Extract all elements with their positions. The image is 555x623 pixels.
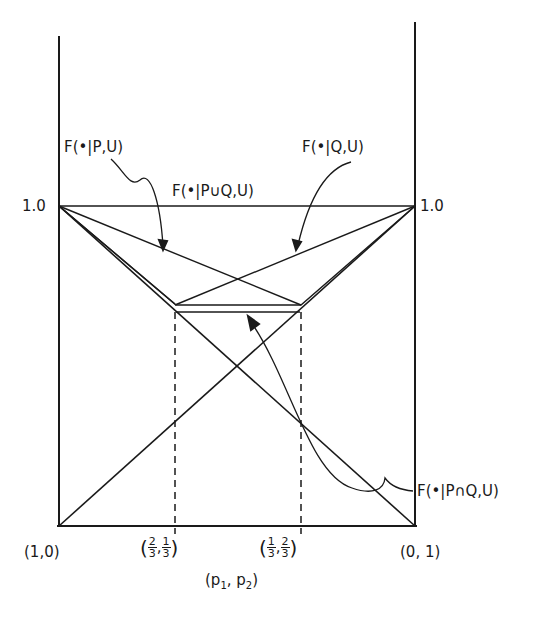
x-tick-1-0: (1,0) xyxy=(24,545,60,560)
label-f-q: F(•|Q,U) xyxy=(302,140,364,155)
arrow-f-q-head xyxy=(293,240,301,250)
label-f-intersection: F(•|P∩Q,U) xyxy=(417,484,499,499)
f-p-outer-left xyxy=(59,206,175,304)
arrow-f-p xyxy=(111,159,163,246)
f-p-slope xyxy=(59,206,301,305)
x-tick-0-1: (0, 1) xyxy=(400,545,440,560)
label-f-union: F(•|P∪Q,U) xyxy=(172,184,254,199)
arrow-f-p-head xyxy=(159,240,167,250)
label-y-right: 1.0 xyxy=(420,199,444,214)
arrow-f-intersection xyxy=(253,325,413,491)
diagram-canvas xyxy=(0,0,555,623)
x-tick-one-third: (13,23) xyxy=(259,536,297,559)
f-p-curve xyxy=(59,206,415,305)
label-f-p: F(•|P,U) xyxy=(64,140,123,155)
label-y-left: 1.0 xyxy=(22,199,46,214)
x-axis-label: (p1, p2) xyxy=(205,573,258,591)
arrow-f-intersection-head xyxy=(248,316,259,330)
f-q-slope xyxy=(175,206,415,305)
arrow-f-q xyxy=(298,162,351,245)
x-tick-two-thirds: (23,13) xyxy=(140,536,178,559)
